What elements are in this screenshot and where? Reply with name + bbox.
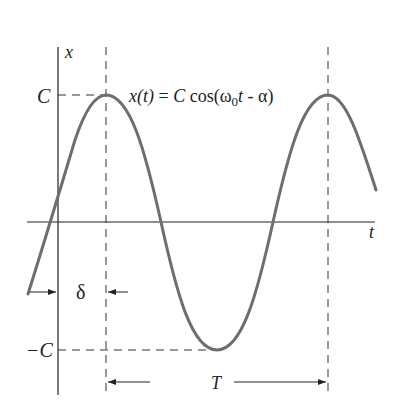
sinusoid-diagram: x t C −C δ T x(t) = C cos(ω0t - α) [0, 0, 396, 402]
x-axis-label: t [369, 222, 375, 242]
negC-label: −C [26, 339, 53, 361]
y-axis-label: x [64, 42, 73, 62]
delta-label: δ [76, 281, 85, 303]
C-label: C [37, 85, 51, 107]
period-label: T [211, 373, 223, 393]
equation: x(t) = C cos(ω0t - α) [128, 86, 273, 109]
